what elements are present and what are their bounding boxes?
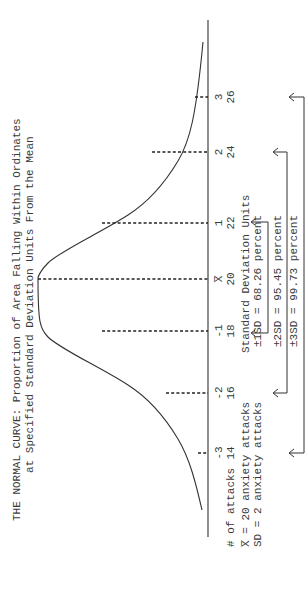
attack-count-labels: 14 16 18 20 22 24 26 xyxy=(225,90,237,459)
sd-units-caption: Standard Deviation Units xyxy=(240,195,252,353)
chart-svg: THE NORMAL CURVE: Proportion of Area Fal… xyxy=(0,0,307,599)
normal-curve-figure: THE NORMAL CURVE: Proportion of Area Fal… xyxy=(0,0,307,599)
tick-value: 14 xyxy=(225,446,237,460)
pct-3sd-label: ±3SD = 99.73 percent xyxy=(288,215,300,347)
sd-label: -1 xyxy=(213,324,225,338)
sd-unit-labels: -3 -2 -1 X̅ 1 2 3 xyxy=(213,94,225,460)
chart-title: THE NORMAL CURVE: Proportion of Area Fal… xyxy=(11,118,23,521)
tick-value: 20 xyxy=(225,272,237,285)
sd-note: SD = 2 anxiety attacks xyxy=(252,402,264,547)
sd-label: -2 xyxy=(213,386,225,399)
tick-value: 26 xyxy=(225,90,237,103)
pct-2sd-label: ±2SD = 95.45 percent xyxy=(272,215,284,347)
tick-value: 18 xyxy=(225,324,237,337)
sd-label: -3 xyxy=(213,446,225,459)
axis-name-label: # of attacks xyxy=(225,468,237,547)
sd-label: 1 xyxy=(213,219,225,226)
sd-label: 2 xyxy=(213,149,225,156)
sd-label: 3 xyxy=(213,94,225,101)
chart-subtitle: at Specified Standard Deviation Units Fr… xyxy=(24,136,36,473)
tick-value: 24 xyxy=(225,145,237,159)
mean-note: X̅ = 20 anxiety attacks xyxy=(240,402,252,548)
tick-value: 16 xyxy=(225,386,237,399)
pct-1sd-label: ±1SD = 68.26 percent xyxy=(252,215,264,347)
bell-curve xyxy=(38,42,203,510)
sd-label-mean: X̅ xyxy=(213,275,225,283)
tick-value: 22 xyxy=(225,216,237,229)
